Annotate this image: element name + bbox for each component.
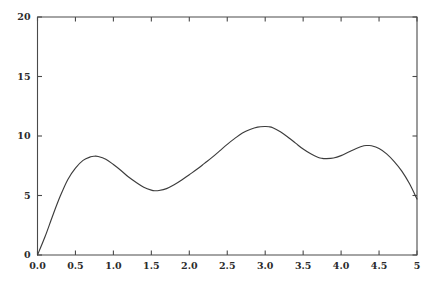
- x-axis-tick-labels: 0.00.51.01.52.02.53.03.54.04.55: [29, 260, 420, 271]
- y-tick-label: 0: [24, 249, 31, 260]
- x-tick-label: 3.5: [295, 260, 312, 271]
- x-tick-label: 5: [414, 260, 421, 271]
- y-tick-label: 5: [24, 190, 31, 201]
- x-tick-label: 1.5: [143, 260, 160, 271]
- chart-figure: 05101520 0.00.51.01.52.02.53.03.54.04.55: [0, 0, 435, 285]
- x-tick-label: 4.0: [333, 260, 350, 271]
- x-tick-label: 0.5: [67, 260, 84, 271]
- x-tick-label: 0.0: [29, 260, 46, 271]
- x-tick-label: 4.5: [371, 260, 388, 271]
- data-curve: [38, 126, 418, 255]
- line-chart-plot: 05101520 0.00.51.01.52.02.53.03.54.04.55: [0, 0, 435, 285]
- x-tick-label: 2.0: [181, 260, 198, 271]
- x-tick-label: 3.0: [257, 260, 274, 271]
- tick-marks-group: [38, 17, 418, 255]
- y-tick-label: 10: [17, 130, 31, 141]
- y-tick-label: 20: [17, 11, 31, 22]
- x-tick-label: 1.0: [105, 260, 122, 271]
- y-tick-label: 15: [17, 71, 30, 82]
- y-axis-tick-labels: 05101520: [17, 11, 31, 260]
- plot-frame: [38, 17, 418, 255]
- x-tick-label: 2.5: [219, 260, 236, 271]
